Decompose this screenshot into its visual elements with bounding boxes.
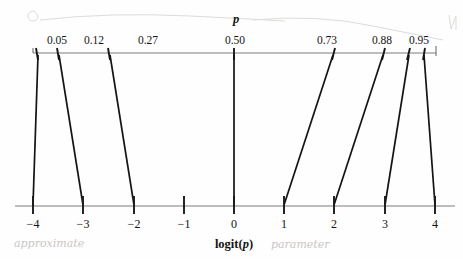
- bottom-tick-label-4: 0: [231, 217, 237, 231]
- connector-2: [110, 55, 134, 205]
- bottom-tick-label-8: 4: [432, 217, 438, 231]
- bottom-tick-label-5: 1: [281, 217, 287, 231]
- handwritten-note-left: approximate: [14, 237, 85, 250]
- top-tick-label-3: 0.50: [225, 34, 245, 46]
- handwritten-note-right: parameter: [271, 238, 330, 251]
- corner-loop-icon: [28, 11, 38, 21]
- top-tick-label-6: 0.95: [409, 34, 429, 46]
- top-tick-label-0: 0.05: [47, 34, 67, 46]
- bottom-tick-label-7: 3: [382, 217, 388, 231]
- bottom-axis-title: logit(p): [215, 237, 253, 251]
- top-axis-title: p: [232, 12, 239, 26]
- sketch-curve-left: [40, 15, 285, 21]
- connector-0: [33, 55, 38, 205]
- connector-5: [334, 55, 383, 205]
- top-tick-label-5: 0.88: [372, 34, 392, 46]
- top-axis-group: 0.05 0.12 0.27 0.50 0.73 0.88 0.95 p: [33, 12, 436, 60]
- corner-n-icon: [449, 15, 456, 30]
- bottom-tick-label-0: −4: [27, 217, 40, 231]
- connector-6: [385, 55, 409, 205]
- figure-page: 0.05 0.12 0.27 0.50 0.73 0.88 0.95 p: [0, 0, 463, 259]
- handwritten-notes-group: approximate parameter: [14, 237, 330, 251]
- connector-lines-group: [33, 55, 435, 205]
- bottom-tick-label-2: −2: [128, 217, 141, 231]
- connector-1: [59, 55, 83, 205]
- logit-probability-nomogram: 0.05 0.12 0.27 0.50 0.73 0.88 0.95 p: [0, 0, 463, 259]
- connector-4: [284, 55, 333, 205]
- bottom-tick-label-3: −1: [178, 217, 191, 231]
- top-tick-label-1: 0.12: [84, 34, 104, 46]
- top-tick-label-2: 0.27: [138, 34, 158, 46]
- top-tick-label-4: 0.73: [317, 34, 337, 46]
- bottom-tick-label-1: −3: [77, 217, 90, 231]
- connector-7: [424, 55, 435, 205]
- bottom-tick-label-6: 2: [331, 217, 337, 231]
